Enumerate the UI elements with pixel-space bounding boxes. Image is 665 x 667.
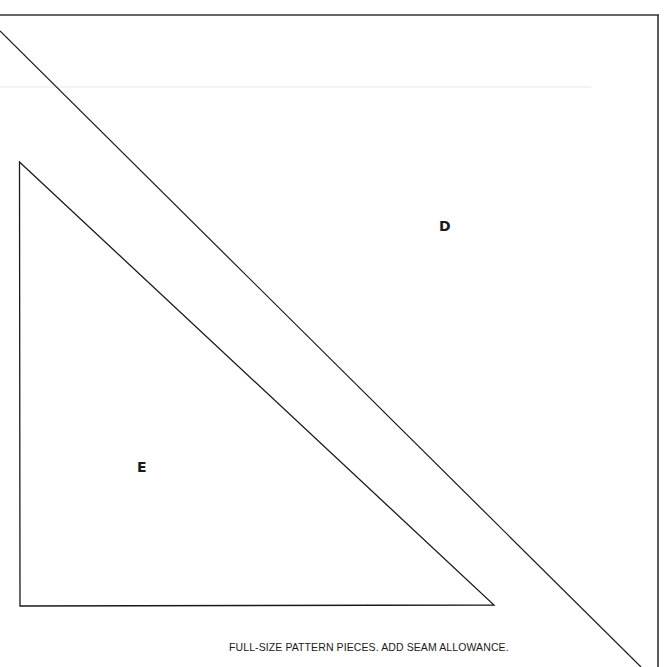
pattern-sheet: D E FULL-SIZE PATTERN PIECES. ADD SEAM A… <box>0 0 665 667</box>
pattern-caption: FULL-SIZE PATTERN PIECES. ADD SEAM ALLOW… <box>229 641 509 653</box>
piece-d-outline <box>0 15 659 667</box>
pattern-drawing <box>0 0 665 667</box>
piece-d-label: D <box>439 219 451 233</box>
piece-e-outline <box>20 162 495 606</box>
piece-e-label: E <box>137 460 147 474</box>
